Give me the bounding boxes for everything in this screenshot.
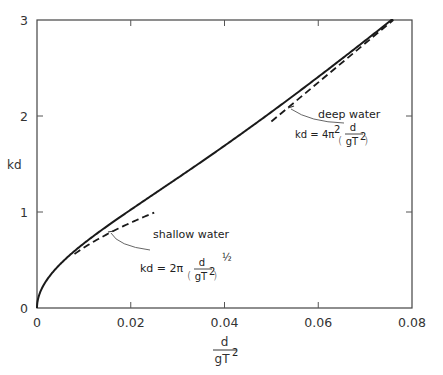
deep-title: deep water <box>318 108 381 121</box>
plot-frame <box>37 20 412 308</box>
y-axis-label: kd <box>7 158 22 172</box>
x-tick-2: 0.04 <box>211 315 239 330</box>
x-tick-labels: 0 0.02 0.04 0.06 0.08 <box>33 315 426 330</box>
deep-water-annotation: deep water kd = 4π 2 ( d gT 2 ) <box>288 106 381 147</box>
shallow-lhs: kd = 2π <box>140 262 184 275</box>
shallow-water-annotation: shallow water kd = 2π ( d gT 2 ) ½ <box>108 228 232 282</box>
y-tick-3: 3 <box>20 13 28 28</box>
dispersion-curve <box>37 20 393 308</box>
deep-den: gT <box>346 136 359 147</box>
x-axis-label-num: d <box>221 335 229 349</box>
chart-canvas: 0 0.02 0.04 0.06 0.08 0 1 2 3 kd d gT 2 … <box>0 0 443 375</box>
deep-num: d <box>350 122 356 133</box>
x-tick-1: 0.02 <box>117 315 145 330</box>
deep-lhs: kd = 4π <box>295 129 334 140</box>
shallow-paren-open: ( <box>187 269 191 282</box>
shallow-power: ½ <box>222 252 232 263</box>
deep-water-asymptote <box>271 20 393 122</box>
shallow-paren-close: ) <box>213 269 217 282</box>
shallow-leader-arrow <box>111 233 150 250</box>
x-axis-label-den: gT <box>215 352 231 366</box>
x-tick-0: 0 <box>33 315 41 330</box>
y-tick-0: 0 <box>20 301 28 316</box>
x-tick-4: 0.08 <box>398 315 426 330</box>
shallow-den: gT <box>195 271 208 282</box>
y-tick-1: 1 <box>20 205 28 220</box>
deep-paren-close: ) <box>364 134 368 147</box>
shallow-title: shallow water <box>153 228 230 241</box>
x-tick-3: 0.06 <box>304 315 332 330</box>
deep-paren-open: ( <box>338 134 342 147</box>
shallow-num: d <box>199 257 205 268</box>
shallow-water-asymptote <box>75 213 155 254</box>
y-tick-2: 2 <box>20 109 28 124</box>
x-axis-label-exp: 2 <box>232 347 238 358</box>
x-axis-label: d gT 2 <box>213 335 238 366</box>
